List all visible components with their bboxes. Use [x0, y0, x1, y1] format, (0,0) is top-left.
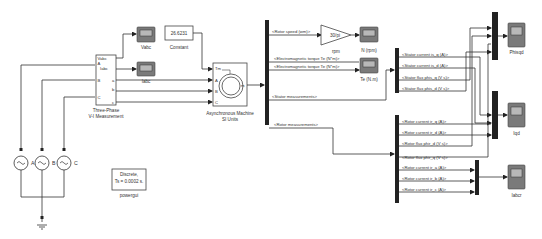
- bus-selector-main[interactable]: [265, 20, 269, 125]
- source-label-a: A: [31, 160, 35, 166]
- scope-iabcr-label: Iabcr: [511, 193, 522, 198]
- powergui-mode: Discrete,: [120, 172, 138, 177]
- scope-phisqd[interactable]: Phisqd: [508, 23, 525, 55]
- voltage-source-a[interactable]: A: [14, 156, 35, 170]
- scope-te-label: Te (N.m): [360, 77, 378, 82]
- stator-signal-list: <Stator current is_q (A)> <Stator curren…: [399, 28, 491, 123]
- signal-stator-isq: <Stator current is_q (A)>: [402, 52, 448, 57]
- signal-stator-isd: <Stator current is_d (A)>: [402, 63, 448, 68]
- three-phase-sources: A B C: [14, 65, 95, 229]
- vi-measurement-title: Three-Phase: [93, 108, 120, 113]
- voltage-source-b[interactable]: B: [35, 156, 56, 170]
- asynchronous-machine-block[interactable]: Tm A B C m Asynchronous Machine SI Units: [206, 63, 254, 122]
- scope-phisqd-label: Phisqd: [509, 50, 523, 55]
- powergui-label: powergui: [120, 193, 139, 198]
- signal-rotor-ird: <Rotor current ir_d (A)>: [402, 130, 447, 135]
- signal-rotor-irq: <Rotor current ir_q (A)>: [402, 119, 447, 124]
- voltage-source-c[interactable]: C: [57, 156, 78, 170]
- mux-iqd[interactable]: [492, 91, 498, 139]
- scope-iabc-label: Iabc: [142, 79, 151, 84]
- vi-measurement-subtitle: V-I Measurement: [89, 114, 125, 119]
- mux-iabcr[interactable]: [475, 160, 479, 195]
- scope-iqd-label: Iqd: [513, 131, 520, 136]
- simulink-diagram-canvas: A B C Vabc A Iabc B a C b c Thre: [0, 0, 542, 239]
- signal-rotor-ira: <Rotor current ir_a (A)>: [402, 165, 447, 170]
- machine-subtitle: SI Units: [222, 117, 239, 122]
- scope-n-rpm[interactable]: N (rpm): [360, 27, 378, 53]
- port-machine-b: B: [215, 89, 218, 94]
- ground-icon: [37, 225, 47, 229]
- bus-selector-rotor[interactable]: [395, 115, 399, 203]
- signal-te-2: <Electromagnetic torque Te (N*m)>: [274, 64, 340, 69]
- scope-iabcr[interactable]: Iabcr: [508, 165, 525, 198]
- signal-rotor-phird: <Rotor flux phir_d (V s)>: [402, 141, 448, 146]
- signal-rotor-speed: <Rotor speed (wm)>: [272, 29, 311, 34]
- signal-rotor-phirq: <Rotor flux phir_q (V s)>: [402, 155, 448, 160]
- mux-phisqd[interactable]: [492, 12, 498, 60]
- scope-iabc[interactable]: Iabc: [137, 62, 155, 84]
- signal-te-1: <Electromagnetic torque Te (N*m)>: [274, 56, 340, 61]
- scope-iqd[interactable]: Iqd: [508, 103, 525, 136]
- signal-rotor-measurements: <Rotor measurements>: [274, 122, 319, 127]
- signal-rotor-irb: <Rotor current ir_b (A)>: [402, 176, 447, 181]
- scope-n-rpm-label: N (rpm): [361, 48, 377, 53]
- machine-title: Asynchronous Machine: [206, 111, 254, 116]
- signal-stator-phisq: <Stator flux phis_q (V s)>: [402, 75, 450, 80]
- source-label-c: C: [74, 160, 78, 166]
- constant-value: 26.6231: [171, 31, 188, 36]
- scope-te[interactable]: Te (N.m): [360, 58, 378, 82]
- signal-stator-phisd: <Stator flux phis_d (V s)>: [402, 86, 450, 91]
- gain-value: 30/pi: [330, 33, 340, 38]
- port-iabc: Iabc: [100, 66, 108, 71]
- port-machine-c: C: [215, 100, 218, 105]
- signal-rotor-irc: <Rotor current ir_c (A)>: [402, 187, 447, 192]
- port-tm: Tm: [215, 66, 222, 71]
- port-c-out: c: [112, 100, 114, 105]
- powergui-block[interactable]: Discrete, Ts = 0.0002 s. powergui: [112, 169, 146, 198]
- gain-block[interactable]: 30/pi rpm: [321, 25, 351, 54]
- port-c-in: C: [98, 95, 101, 100]
- scope-vabc-label: Vabc: [141, 45, 152, 50]
- source-label-b: B: [52, 160, 56, 166]
- port-a-in: A: [98, 61, 101, 66]
- gain-label: rpm: [332, 49, 340, 54]
- port-b-in: B: [98, 78, 101, 83]
- bus-selector-stator[interactable]: [395, 48, 399, 93]
- constant-label: Constant: [170, 45, 189, 50]
- signal-stator-measurements: <Stator measurements>: [272, 94, 317, 99]
- scope-vabc[interactable]: Vabc: [137, 27, 155, 50]
- port-machine-a: A: [215, 78, 218, 83]
- constant-block[interactable]: 26.6231 Constant: [165, 26, 193, 50]
- powergui-sample-time: Ts = 0.0002 s.: [115, 179, 144, 184]
